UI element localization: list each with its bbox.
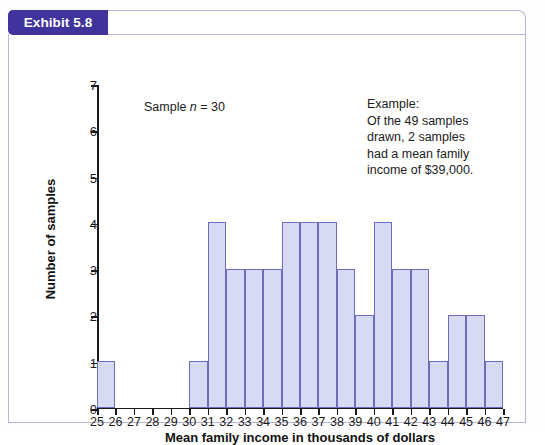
x-axis-tick-label: 35: [275, 415, 289, 429]
histogram-bar: [245, 269, 263, 408]
histogram-plot: 01234567 2526272829303132333435363738394…: [97, 85, 503, 409]
x-axis-tick-label: 38: [330, 415, 344, 429]
x-axis-tick-label: 26: [109, 415, 123, 429]
x-axis-tick-label: 29: [164, 415, 178, 429]
histogram-bar: [263, 269, 281, 408]
x-axis-tick-label: 30: [182, 415, 196, 429]
y-axis-tick-label: 2: [90, 309, 97, 324]
x-axis-tick-label: 44: [441, 415, 455, 429]
x-axis-tick-label: 39: [348, 415, 362, 429]
x-axis-tick-label: 40: [367, 415, 381, 429]
x-axis-tick-label: 46: [478, 415, 492, 429]
y-axis-tick-label: 3: [90, 263, 97, 278]
histogram-bar: [429, 361, 447, 407]
y-axis-title: Number of samples: [43, 179, 58, 300]
y-axis-tick-label: 1: [90, 355, 97, 370]
x-axis-tick-label: 25: [90, 415, 104, 429]
exhibit-header: Exhibit 5.8 Partial Sampling Distributio…: [8, 10, 526, 35]
x-axis-tick-label: 34: [256, 415, 270, 429]
y-axis-tick-label: 6: [90, 124, 97, 139]
x-axis-tick-label: 31: [201, 415, 215, 429]
x-axis-tick-label: 43: [422, 415, 436, 429]
x-axis-tick-label: 41: [385, 415, 399, 429]
histogram-bar: [300, 222, 318, 407]
histogram-bar: [448, 315, 466, 408]
x-axis-labels: 2526272829303132333435363738394041424344…: [97, 415, 503, 433]
x-axis-tick-label: 47: [496, 415, 510, 429]
y-axis-labels: 01234567: [83, 85, 97, 409]
histogram-bar: [466, 315, 484, 408]
x-axis-tick-label: 33: [238, 415, 252, 429]
x-axis-tick-label: 42: [404, 415, 418, 429]
histogram-bar: [337, 269, 355, 408]
histogram-bar: [318, 222, 336, 407]
histogram-bar: [208, 222, 226, 407]
x-axis-tick-label: 37: [312, 415, 326, 429]
histogram-bar: [411, 269, 429, 408]
histogram-bar: [355, 315, 373, 408]
x-axis-tick-label: 36: [293, 415, 307, 429]
histogram-bar: [374, 222, 392, 407]
exhibit-title-bar: [108, 10, 526, 35]
y-axis-tick-label: 4: [90, 216, 97, 231]
y-axis-tick-label: 7: [90, 78, 97, 93]
histogram-bar: [392, 269, 410, 408]
y-axis-tick-label: 5: [90, 170, 97, 185]
x-axis-tick-label: 28: [145, 415, 159, 429]
exhibit-panel: Sample n = 30 Example:Of the 49 samplesd…: [8, 34, 526, 423]
histogram-bar: [485, 361, 503, 407]
histogram-bar: [189, 361, 207, 407]
x-axis-tick-label: 27: [127, 415, 141, 429]
x-axis-tick-label: 32: [219, 415, 233, 429]
exhibit-badge: Exhibit 5.8: [8, 10, 108, 35]
histogram-bar: [282, 222, 300, 407]
histogram-bar: [97, 361, 115, 407]
histogram-bar: [226, 269, 244, 408]
x-axis-tick-label: 45: [459, 415, 473, 429]
